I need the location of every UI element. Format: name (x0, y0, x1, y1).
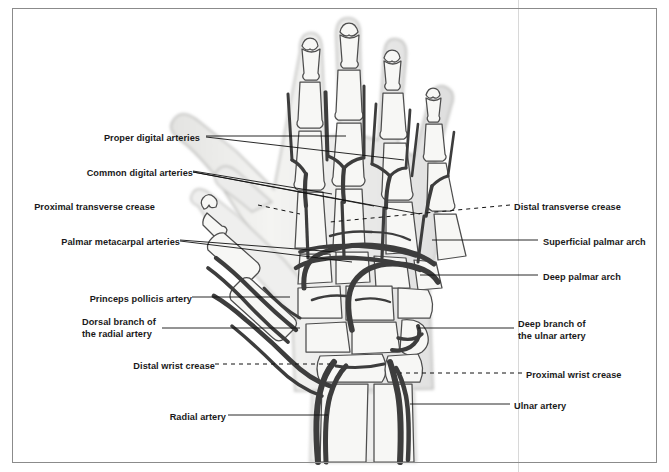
label-text-line1: Dorsal branch of (82, 317, 156, 327)
label-deep-palmar-arch: Deep palmar arch (543, 272, 621, 284)
label-text: Ulnar artery (514, 401, 566, 411)
label-text: Radial artery (170, 412, 226, 422)
label-proper-digital-arteries: Proper digital arteries (104, 133, 200, 145)
label-palmar-metacarpal-arteries: Palmar metacarpal arteries (61, 237, 180, 249)
label-common-digital-arteries: Common digital arteries (87, 168, 193, 180)
label-text: Superficial palmar arch (543, 237, 646, 247)
label-text-line1: Deep branch of (518, 319, 586, 329)
label-radial-artery: Radial artery (170, 412, 226, 424)
label-text: Distal transverse crease (514, 202, 621, 212)
label-princeps-pollicis-artery: Princeps pollicis artery (90, 294, 192, 306)
label-text: Proper digital arteries (104, 133, 200, 143)
anatomical-figure: Proper digital arteries Common digital a… (0, 0, 669, 472)
label-deep-branch-of-the-ulnar-artery: Deep branch of the ulnar artery (518, 319, 586, 342)
label-text: Princeps pollicis artery (90, 294, 192, 304)
label-distal-transverse-crease: Distal transverse crease (514, 202, 621, 214)
label-text: Proximal wrist crease (526, 370, 622, 380)
label-proximal-transverse-crease: Proximal transverse crease (34, 202, 155, 214)
label-text: Proximal transverse crease (34, 202, 155, 212)
label-text-line2: the radial artery (82, 329, 152, 339)
label-text: Common digital arteries (87, 168, 193, 178)
label-proximal-wrist-crease: Proximal wrist crease (526, 370, 622, 382)
figure-border (12, 8, 657, 463)
label-distal-wrist-crease: Distal wrist crease (133, 361, 215, 373)
label-superficial-palmar-arch: Superficial palmar arch (543, 237, 646, 249)
label-text: Distal wrist crease (133, 361, 215, 371)
label-text-line2: the ulnar artery (518, 331, 586, 341)
label-ulnar-artery: Ulnar artery (514, 401, 566, 413)
label-dorsal-branch-of-the-radial-artery: Dorsal branch of the radial artery (82, 317, 156, 340)
label-text: Deep palmar arch (543, 272, 621, 282)
label-text: Palmar metacarpal arteries (61, 237, 180, 247)
